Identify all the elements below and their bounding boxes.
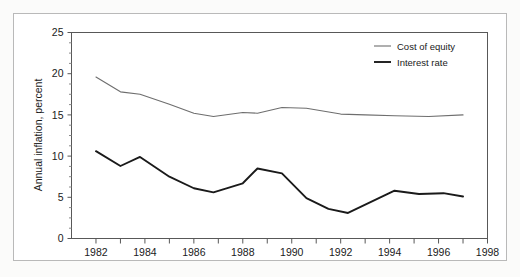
x-tick-label-1986: 1986 [182, 246, 206, 258]
data-series-layer [96, 77, 463, 213]
y-axis-tick-labels: 0510152025 [52, 26, 64, 244]
y-tick-label-20: 20 [52, 67, 64, 79]
series-line-cost-of-equity [96, 77, 463, 117]
y-tick-label-5: 5 [58, 191, 64, 203]
x-axis-tick-labels: 198219841986198819901992199419961998 [84, 246, 499, 258]
x-tick-label-1996: 1996 [427, 246, 451, 258]
x-tick-label-1992: 1992 [329, 246, 353, 258]
legend-label-interest-rate: Interest rate [397, 57, 448, 68]
x-tick-label-1990: 1990 [280, 246, 304, 258]
chart-legend: Cost of equityInterest rate [374, 41, 455, 68]
line-chart: Annual inflation, percent 0510152025 198… [0, 0, 520, 277]
x-tick-label-1988: 1988 [231, 246, 255, 258]
y-tick-label-25: 25 [52, 26, 64, 38]
x-tick-label-1982: 1982 [84, 246, 108, 258]
y-tick-label-10: 10 [52, 150, 64, 162]
y-axis-title: Annual inflation, percent [32, 79, 44, 192]
y-tick-label-15: 15 [52, 109, 64, 121]
y-axis-ticks [68, 33, 72, 239]
figure-root: Annual inflation, percent 0510152025 198… [0, 0, 520, 277]
legend-label-cost-of-equity: Cost of equity [397, 41, 455, 52]
x-tick-label-1994: 1994 [378, 246, 402, 258]
x-tick-label-1984: 1984 [133, 246, 157, 258]
y-tick-label-0: 0 [58, 232, 64, 244]
x-tick-label-1998: 1998 [476, 246, 500, 258]
series-line-interest-rate [96, 151, 463, 213]
x-axis-ticks [96, 239, 488, 244]
